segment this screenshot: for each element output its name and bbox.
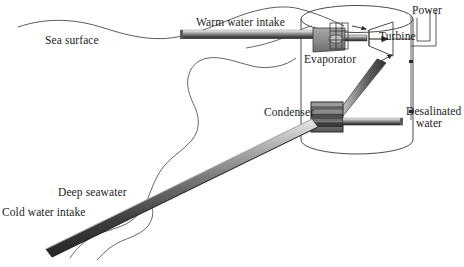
label-evaporator: Evaporator xyxy=(304,53,356,65)
label-warm-water-intake: Warm water intake xyxy=(196,16,285,28)
label-turbine: Turbine xyxy=(379,30,416,42)
label-condenser: Condenser xyxy=(264,106,314,118)
label-sea-surface: Sea surface xyxy=(45,34,99,46)
desalinated-water-pipe xyxy=(343,118,403,125)
label-desalinated-water: Desalinated water xyxy=(406,105,461,130)
warm-water-intake-pipe xyxy=(180,30,317,39)
vapor-return-arrow xyxy=(381,55,392,61)
label-power: Power xyxy=(412,4,442,16)
label-cold-water-intake: Cold water intake xyxy=(2,206,85,218)
label-desalinated-line1: Desalinated xyxy=(406,105,461,117)
label-deep-seawater: Deep seawater xyxy=(58,186,127,198)
label-desalinated-line2: water xyxy=(406,117,461,129)
diagram-canvas: Sea surface Warm water intake Evaporator… xyxy=(0,0,464,267)
vapor-to-turbine-arrow xyxy=(352,26,366,29)
